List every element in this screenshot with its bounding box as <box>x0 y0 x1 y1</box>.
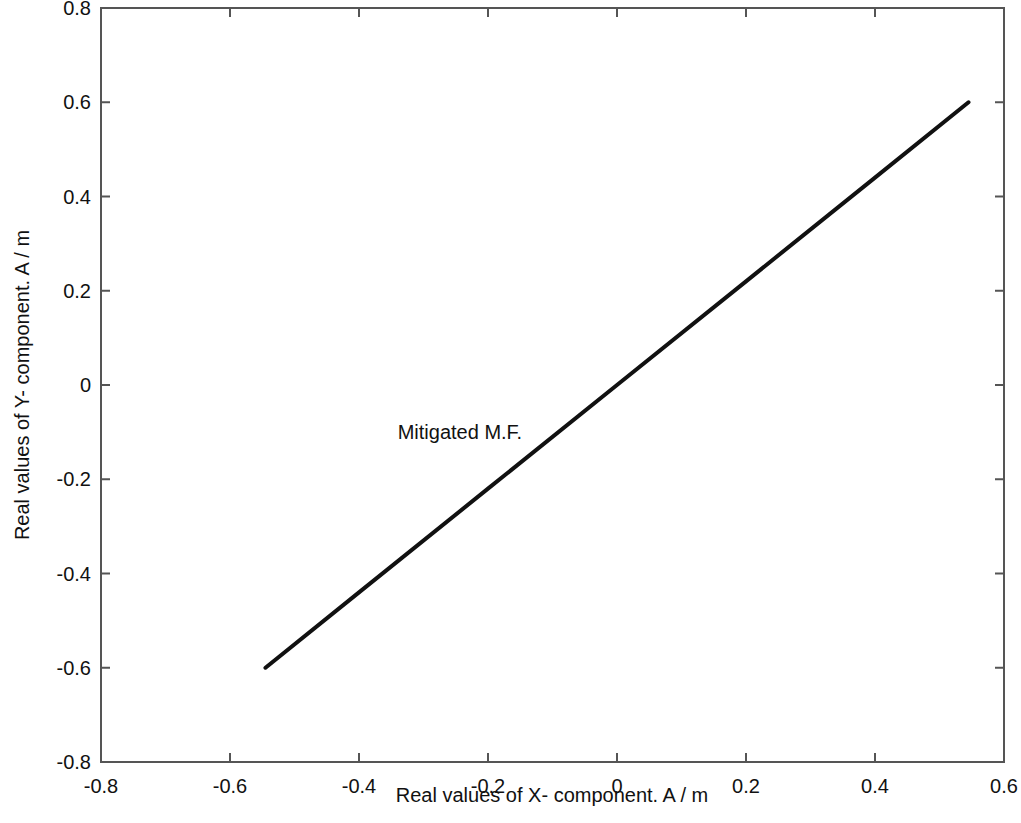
y-tick-label: 0.8 <box>63 0 91 18</box>
y-tick-label: 0.4 <box>63 187 91 207</box>
x-tick-label: -0.6 <box>213 776 247 796</box>
x-tick-label: 0.2 <box>732 776 760 796</box>
y-tick-label: -0.2 <box>57 469 91 489</box>
y-tick-label: 0 <box>80 375 91 395</box>
y-tick-label: -0.8 <box>57 752 91 772</box>
x-axis-title: Real values of X- component. A / m <box>396 785 708 805</box>
chart-figure: -0.8-0.6-0.4-0.200.20.40.6 -0.8-0.6-0.4-… <box>0 0 1021 823</box>
axes-frame <box>101 8 1004 762</box>
y-tick-label: -0.4 <box>57 564 91 584</box>
y-tick-label: 0.6 <box>63 92 91 112</box>
x-tick-label: 0.4 <box>861 776 889 796</box>
plot-canvas <box>0 0 1021 823</box>
y-axis-title: Real values of Y- component. A / m <box>12 230 32 540</box>
x-tick-label: 0.6 <box>990 776 1018 796</box>
x-tick-label: -0.4 <box>342 776 376 796</box>
series-annotation-mitigated-mf: Mitigated M.F. <box>398 422 522 442</box>
y-tick-label: 0.2 <box>63 281 91 301</box>
x-tick-label: -0.8 <box>84 776 118 796</box>
y-tick-label: -0.6 <box>57 658 91 678</box>
